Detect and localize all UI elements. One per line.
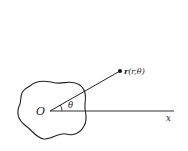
polar-coordinate-diagram: O θ x r(r,θ) bbox=[0, 0, 188, 151]
point-marker bbox=[118, 69, 122, 73]
point-label: r(r,θ) bbox=[124, 66, 145, 76]
origin-label: O bbox=[36, 105, 45, 118]
point-args-label: (r,θ) bbox=[128, 67, 145, 76]
angle-label: θ bbox=[68, 100, 73, 110]
x-axis-label: x bbox=[166, 113, 171, 123]
angle-arc bbox=[60, 105, 62, 111]
